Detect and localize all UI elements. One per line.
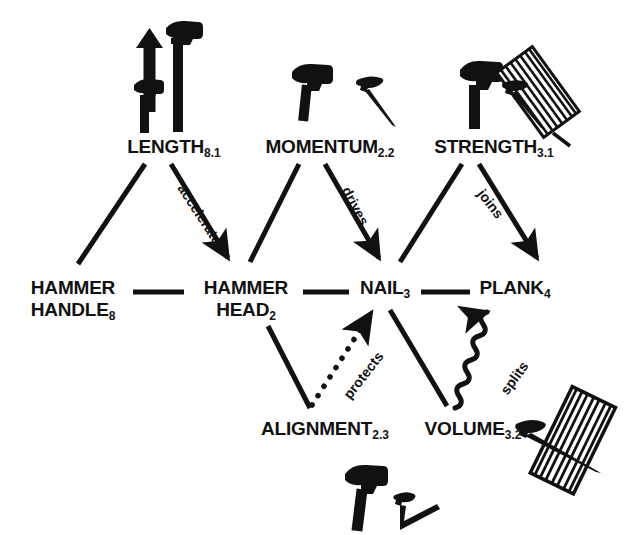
edge-head-alignment [268, 326, 310, 408]
node-hammer-head-label: HAMMER [204, 277, 288, 298]
node-hammer-head[interactable]: HAMMER HEAD2 [189, 277, 303, 322]
node-volume-subscript: 3.2 [505, 428, 522, 442]
node-nail-label: NAIL [360, 277, 404, 298]
node-hammer-head-word2: HEAD [216, 299, 269, 320]
edge-length-handle [78, 164, 145, 264]
edge-momentum-head [250, 164, 299, 262]
node-nail-subscript: 3 [403, 287, 410, 301]
node-plank[interactable]: PLANK4 [473, 277, 557, 299]
node-hammer-handle-label2: HANDLE8 [18, 299, 128, 321]
node-hammer-head-subscript: 2 [269, 309, 276, 323]
edge-volume-plank [455, 312, 487, 408]
node-alignment-subscript: 2.3 [372, 428, 389, 442]
node-hammer-handle-subscript: 8 [109, 309, 116, 323]
node-momentum-subscript: 2.2 [378, 146, 395, 160]
node-length-label: LENGTH [127, 136, 204, 157]
node-strength-label: STRENGTH [434, 136, 537, 157]
node-plank-label: PLANK [479, 277, 543, 298]
node-strength-subscript: 3.1 [537, 146, 554, 160]
node-alignment-label: ALIGNMENT [261, 418, 372, 439]
edge-strength-nail [400, 164, 462, 262]
node-strength[interactable]: STRENGTH3.1 [418, 136, 570, 158]
node-volume[interactable]: VOLUME3.2 [414, 418, 532, 440]
node-hammer-handle[interactable]: HAMMER HANDLE8 [18, 277, 128, 322]
node-hammer-handle-label: HAMMER [31, 277, 115, 298]
edge-nail-volume [390, 310, 447, 406]
node-alignment[interactable]: ALIGNMENT2.3 [245, 418, 405, 440]
edge-layer [0, 0, 633, 535]
node-hammer-handle-word2: HANDLE [31, 299, 109, 320]
concept-diagram: LENGTH8.1 MOMENTUM2.2 STRENGTH3.1 HAMMER… [0, 0, 633, 535]
node-length-subscript: 8.1 [204, 146, 221, 160]
node-plank-subscript: 4 [544, 287, 551, 301]
node-nail[interactable]: NAIL3 [352, 277, 418, 299]
node-momentum-label: MOMENTUM [265, 136, 377, 157]
node-volume-label: VOLUME [425, 418, 505, 439]
node-length[interactable]: LENGTH8.1 [112, 136, 236, 158]
node-hammer-head-label2: HEAD2 [189, 299, 303, 321]
node-momentum[interactable]: MOMENTUM2.2 [247, 136, 413, 158]
